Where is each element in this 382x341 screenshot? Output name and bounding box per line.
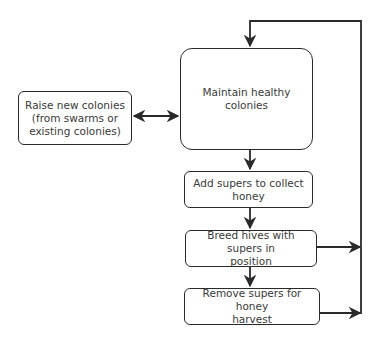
- node-label: Remove supers for honey harvest: [189, 287, 315, 326]
- node-raise-new-colonies: Raise new colonies (from swarms or exist…: [18, 91, 132, 145]
- node-breed-hives: Breed hives with supers in position: [185, 230, 317, 267]
- node-label: Maintain healthy colonies: [185, 86, 308, 112]
- node-label: Add supers to collect honey: [193, 177, 303, 203]
- node-label: Breed hives with supers in position: [190, 229, 312, 268]
- node-remove-supers: Remove supers for honey harvest: [184, 288, 320, 325]
- node-add-supers: Add supers to collect honey: [184, 171, 313, 208]
- node-maintain-healthy-colonies: Maintain healthy colonies: [180, 48, 313, 150]
- node-label: Raise new colonies (from swarms or exist…: [25, 99, 125, 138]
